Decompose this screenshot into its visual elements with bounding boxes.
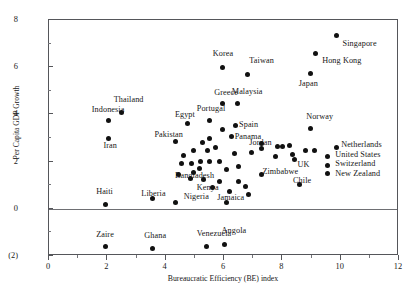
data-point-korea <box>220 65 225 70</box>
data-point <box>191 148 196 153</box>
data-point-new-zealand <box>325 171 330 176</box>
point-label-japan: Japan <box>299 79 318 88</box>
data-point-singapore <box>334 33 339 38</box>
scatter-chart-figure: Per Capita GDP Growth 86420(2)024681012 … <box>0 0 420 292</box>
y-tick-label: 2 <box>14 156 18 165</box>
point-label-nigeria: Nigeria <box>184 192 209 201</box>
x-tick-mark <box>340 255 341 260</box>
y-tick-label: 6 <box>14 62 18 71</box>
data-point <box>198 159 203 164</box>
x-tick-minor-mark <box>311 255 312 258</box>
data-point-taiwan <box>245 72 250 77</box>
data-point-egypt <box>185 121 190 126</box>
data-point-united-states <box>325 154 330 159</box>
point-label-hong-kong: Hong Kong <box>322 56 361 65</box>
x-tick-mark <box>281 255 282 260</box>
data-point-uk <box>292 157 297 162</box>
point-label-thailand: Thailand <box>114 95 144 104</box>
x-tick-mark <box>223 255 224 260</box>
data-point-angola <box>222 242 227 247</box>
point-label-liberia: Liberia <box>141 189 165 198</box>
y-tick-mark <box>48 208 53 209</box>
data-point <box>189 161 194 166</box>
data-point-portugal <box>207 118 212 123</box>
data-point-iran <box>106 136 111 141</box>
x-tick-label: 2 <box>104 262 108 271</box>
data-point <box>232 151 237 156</box>
x-tick-minor-mark <box>194 255 195 258</box>
data-point-norway <box>308 126 313 131</box>
y-tick-label: 0 <box>14 203 18 212</box>
x-tick-label: 0 <box>46 262 50 271</box>
y-tick-mark <box>48 113 53 114</box>
point-label-switzerland: Switzerland <box>335 159 375 168</box>
data-point <box>179 161 184 166</box>
x-tick-mark <box>165 255 166 260</box>
data-point-spain <box>233 123 238 128</box>
data-point-hong-kong <box>313 51 318 56</box>
x-tick-minor-mark <box>136 255 137 258</box>
x-tick-mark <box>48 255 49 260</box>
data-point <box>220 127 225 132</box>
y-tick-minor-mark <box>48 43 51 44</box>
data-point <box>181 153 186 158</box>
zero-reference-line <box>49 209 397 210</box>
point-label-uk: UK <box>297 160 309 169</box>
point-label-united-states: United States <box>335 150 380 159</box>
data-point <box>200 140 205 145</box>
point-label-pakistan: Pakistan <box>154 130 183 139</box>
y-tick-minor-mark <box>48 137 51 138</box>
point-label-kenya: Kenya <box>197 183 219 192</box>
data-point <box>243 184 248 189</box>
point-label-chile: Chile <box>293 176 311 185</box>
point-label-korea: Korea <box>213 49 234 58</box>
data-point <box>207 136 212 141</box>
data-point <box>207 159 212 164</box>
point-label-jordan: Jordan <box>249 138 271 147</box>
point-label-angola: Angola <box>222 226 247 235</box>
point-label-taiwan: Taiwan <box>249 56 274 65</box>
point-label-portugal: Portugal <box>197 104 226 113</box>
data-point <box>280 144 285 149</box>
data-point <box>224 167 229 172</box>
point-label-haiti: Haiti <box>96 187 113 196</box>
point-label-spain: Spain <box>239 120 258 129</box>
data-point-nigeria <box>173 200 178 205</box>
data-point <box>236 179 241 184</box>
y-tick-mark <box>48 161 53 162</box>
data-point-switzerland <box>325 163 330 168</box>
data-point-zaire <box>103 244 108 249</box>
point-label-egypt: Egypt <box>175 110 195 119</box>
x-axis-label: Bureaucratic Efficiency (BE) index <box>48 274 398 283</box>
y-tick-label: (2) <box>8 251 18 260</box>
data-point <box>303 148 308 153</box>
data-point <box>213 145 218 150</box>
x-tick-label: 4 <box>163 262 167 271</box>
y-tick-label: 8 <box>14 15 18 24</box>
point-label-new-zealand: New Zealand <box>335 169 380 178</box>
point-label-norway: Norway <box>306 112 333 121</box>
x-tick-minor-mark <box>252 255 253 258</box>
data-point <box>205 148 210 153</box>
data-point-malaysia <box>235 101 240 106</box>
point-label-bangladesh: Bangladesh <box>175 171 214 180</box>
x-tick-mark <box>398 255 399 260</box>
x-tick-label: 8 <box>279 262 283 271</box>
point-label-indonesia: Indonesia <box>92 105 125 114</box>
y-tick-mark <box>48 66 53 67</box>
data-point <box>312 148 317 153</box>
point-label-ghana: Ghana <box>144 231 166 240</box>
x-tick-minor-mark <box>369 255 370 258</box>
y-tick-mark <box>48 19 53 20</box>
data-point-jordan <box>249 150 254 155</box>
data-point <box>273 154 278 159</box>
data-point-panama <box>229 134 234 139</box>
data-point-venezuela <box>204 244 209 249</box>
data-point <box>217 159 222 164</box>
data-point-haiti <box>103 202 108 207</box>
x-tick-minor-mark <box>77 255 78 258</box>
data-point-indonesia <box>106 118 111 123</box>
point-label-zaire: Zaire <box>96 230 114 239</box>
x-tick-mark <box>106 255 107 260</box>
point-label-malaysia: Malaysia <box>232 87 263 96</box>
